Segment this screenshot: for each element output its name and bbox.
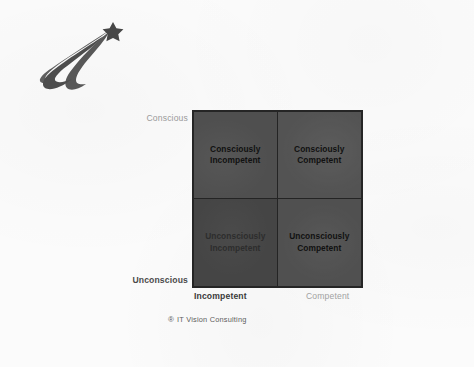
quadrant-label-line2: Incompetent [210,243,260,253]
quadrant-consciously-incompetent: Consciously Incompetent [194,112,278,199]
quadrant-label-line2: Incompetent [210,155,260,165]
copyright-credit: ® IT Vision Consulting [168,315,247,324]
shooting-star-logo [34,22,130,96]
competence-matrix: Consciously Incompetent Consciously Comp… [192,110,363,288]
quadrant-label: Consciously Competent [292,144,346,166]
quadrant-consciously-competent: Consciously Competent [278,112,362,199]
logo-star-icon [103,22,124,41]
quadrant-label: Consciously Incompetent [208,144,262,166]
axis-label-conscious: Conscious [147,113,188,123]
registered-mark-icon: ® [168,316,174,324]
diagram-page: Consciously Incompetent Consciously Comp… [0,0,474,367]
quadrant-label-line2: Competent [297,243,341,253]
axis-label-incompetent: Incompetent [194,291,247,301]
axis-label-unconscious: Unconscious [132,275,188,285]
quadrant-unconsciously-competent: Unconsciously Competent [278,199,362,286]
quadrant-label-line1: Unconsciously [205,231,265,241]
quadrant-label: Unconsciously Competent [287,231,351,253]
quadrant-label-line1: Consciously [294,144,344,154]
quadrant-label-line1: Consciously [210,144,260,154]
quadrant-label: Unconsciously Incompetent [203,231,267,253]
quadrant-label-line1: Unconsciously [289,231,349,241]
quadrant-unconsciously-incompetent: Unconsciously Incompetent [194,199,278,286]
quadrant-label-line2: Competent [297,155,341,165]
credit-text: IT Vision Consulting [177,315,246,324]
axis-label-competent: Competent [306,291,349,301]
